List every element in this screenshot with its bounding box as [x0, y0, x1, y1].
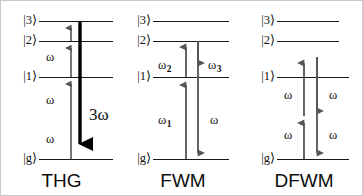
dfwm-omega-down-high-label: ω	[329, 89, 337, 102]
dfwm-omega-up-low-label: ω	[284, 129, 292, 142]
thg-arrows	[1, 1, 122, 196]
thg-omega-label-low: ω	[46, 133, 54, 146]
fwm-omega3-label: ω3	[208, 59, 221, 72]
fwm-omega-out-label: ω	[210, 114, 218, 127]
panel-thg: |3⟩ |2⟩ |1⟩ |g⟩ ω ω ω 3ω THG	[1, 1, 122, 196]
fwm-omega2-subscript: 2	[167, 64, 172, 74]
thg-three-omega-label: 3ω	[89, 106, 109, 123]
dfwm-arrows	[244, 1, 363, 196]
fwm-arrows	[122, 1, 244, 196]
dfwm-process-name: DFWM	[244, 171, 363, 190]
thg-process-name: THG	[1, 171, 122, 190]
thg-omega-label-high: ω	[46, 51, 54, 64]
fwm-omega1-subscript: 1	[167, 119, 172, 129]
panel-fwm: |3⟩ |2⟩ |1⟩ |g⟩ ω2 ω3 ω1	[122, 1, 244, 196]
fwm-process-name: FWM	[122, 171, 244, 190]
fwm-omega3-subscript: 3	[217, 64, 222, 74]
fwm-omega1-label: ω1	[158, 114, 171, 127]
dfwm-omega-up-high-label: ω	[284, 89, 292, 102]
fwm-omega2-symbol: ω	[158, 58, 166, 72]
dfwm-omega-down-low-label: ω	[329, 129, 337, 142]
panel-dfwm: |3⟩ |2⟩ |1⟩ |g⟩ ω ω ω ω DFWM	[244, 1, 363, 196]
fwm-omega3-symbol: ω	[208, 58, 216, 72]
fwm-omega1-symbol: ω	[158, 113, 166, 127]
fwm-omega2-label: ω2	[158, 59, 171, 72]
energy-level-diagram-figure: |3⟩ |2⟩ |1⟩ |g⟩ ω ω ω 3ω THG	[0, 0, 363, 196]
thg-omega-label-mid: ω	[46, 94, 54, 107]
